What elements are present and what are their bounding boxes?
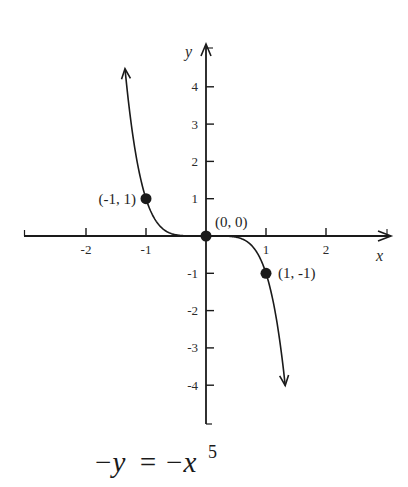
x-tick-label: -1 [141, 242, 152, 257]
y-tick-label: -4 [187, 378, 198, 393]
y-tick-label: -2 [187, 303, 198, 318]
x-tick-label: 2 [323, 242, 330, 257]
data-point [261, 268, 272, 279]
caption-rhs: −x [164, 446, 197, 478]
y-axis-label: y [183, 43, 193, 61]
y-tick-label: 1 [192, 191, 199, 206]
data-point [141, 193, 152, 204]
curve-group [122, 69, 289, 386]
x-axis-label: x [375, 247, 383, 264]
equation-caption: −y = −x 5 [93, 442, 217, 478]
y-tick-label: -1 [187, 266, 198, 281]
caption-lhs: −y [93, 446, 126, 478]
y-tick-label: 2 [192, 154, 199, 169]
x-tick-label: 1 [263, 242, 270, 257]
y-tick-label: -3 [187, 340, 198, 355]
function-graph: -2-1124321-1-2-3-4 (-1, 1)(0, 0)(1, -1) … [0, 0, 408, 487]
data-point [201, 231, 212, 242]
data-point-label: (1, -1) [278, 265, 316, 282]
data-point-label: (0, 0) [215, 214, 248, 231]
data-point-label: (-1, 1) [99, 191, 137, 208]
x-tick-label: -2 [81, 242, 92, 257]
y-tick-label: 4 [192, 79, 199, 94]
caption-equals: = [138, 446, 158, 478]
caption-exponent: 5 [208, 442, 217, 462]
y-tick-label: 3 [192, 117, 199, 132]
